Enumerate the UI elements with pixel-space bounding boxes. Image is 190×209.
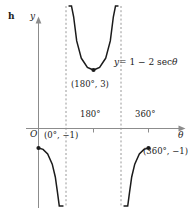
curve-branch-left <box>39 148 63 206</box>
curve-branches <box>39 6 149 206</box>
asymptote-lines <box>66 6 121 206</box>
point-180-deg <box>91 68 95 72</box>
y-axis-label: y <box>30 12 35 21</box>
plot-canvas <box>0 0 190 208</box>
equation-rhs: = 1 − 2 sec <box>119 57 172 67</box>
point-label-360-deg: (360°, −1) <box>143 147 188 156</box>
y-axis <box>36 17 42 209</box>
sec-function-graph-figure: h y θ O y= 1 − 2 secθ 180° 360° (180°, 3… <box>0 0 190 208</box>
equation-label: y= 1 − 2 secθ <box>114 58 177 67</box>
x-tick-label-180: 180° <box>80 110 100 119</box>
x-tick-label-360: 360° <box>135 110 155 119</box>
x-axis-label: θ <box>178 131 183 140</box>
part-label: h <box>8 12 15 21</box>
curve-branch-right <box>124 148 148 206</box>
point-label-0-deg: (0°, −1) <box>44 131 78 140</box>
point-label-180-deg: (180°, 3) <box>71 80 109 89</box>
origin-label: O <box>30 130 37 139</box>
point-0-deg <box>36 146 40 150</box>
equation-variable: θ <box>172 57 177 67</box>
curve-branch-middle <box>69 6 118 70</box>
